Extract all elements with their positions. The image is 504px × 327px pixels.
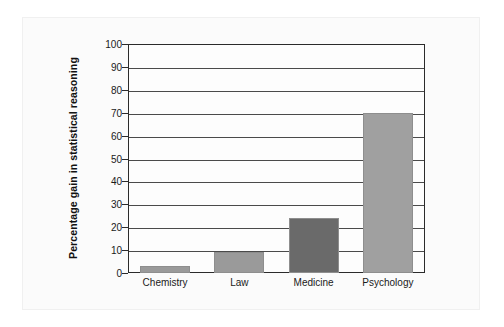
y-axis-tick-label: 0 [96,268,122,279]
y-axis-tick-mark [122,204,128,205]
y-axis-tick-label: 90 [96,61,122,72]
x-axis-tick-labels: ChemistryLawMedicinePsychology [128,277,425,297]
bars-layer [128,44,425,273]
y-axis-tick-label: 40 [96,176,122,187]
bar [214,252,264,273]
x-axis-tick-label: Psychology [362,277,413,288]
y-axis-tick-mark [122,44,128,45]
y-axis-tick-mark [122,227,128,228]
y-axis-tick-mark [122,113,128,114]
y-axis-tick-mark [122,181,128,182]
y-axis-tick-label: 30 [96,199,122,210]
bar [140,266,190,273]
bar [289,218,339,273]
bar [363,113,413,273]
x-axis-tick-label: Medicine [294,277,334,288]
y-axis-tick-label: 20 [96,222,122,233]
y-axis-tick-label: 10 [96,245,122,256]
y-axis-tick-mark [122,159,128,160]
y-axis-tick-labels: 0102030405060708090100 [94,44,122,273]
y-axis-tick-label: 80 [96,84,122,95]
y-axis-tick-mark [122,90,128,91]
chart: Percentage gain in statistical reasoning… [0,0,504,327]
x-axis-tick-label: Chemistry [143,277,188,288]
y-axis-tick-label: 50 [96,153,122,164]
y-axis-tick-mark [122,67,128,68]
y-axis-tick-label: 100 [96,39,122,50]
y-axis-title: Percentage gain in statistical reasoning [67,33,79,283]
y-axis-tick-mark [122,136,128,137]
y-axis-tick-label: 60 [96,130,122,141]
figure-container: Percentage gain in statistical reasoning… [0,0,504,327]
y-axis-tick-mark [122,273,128,274]
y-axis-tick-mark [122,250,128,251]
x-axis-tick-label: Law [230,277,248,288]
y-axis-tick-label: 70 [96,107,122,118]
